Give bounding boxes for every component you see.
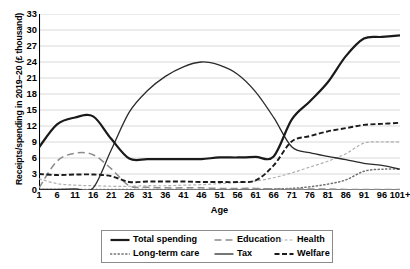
x-axis-tick-label: 86 — [341, 191, 351, 200]
x-axis-tick-label: 81 — [323, 191, 333, 200]
y-axis-tick-label: 3 — [17, 169, 37, 178]
x-axis-tick-label: 71 — [287, 191, 297, 200]
series-line-total-spending — [39, 35, 400, 160]
x-axis-tick-label: 66 — [269, 191, 279, 200]
legend-item-label: Tax — [237, 249, 252, 258]
y-axis-tick-label: 12 — [17, 121, 37, 130]
solid-thick-line-swatch — [110, 235, 130, 245]
legend-item-health[interactable]: Health — [270, 233, 325, 247]
y-axis-tick-label: 21 — [17, 73, 37, 82]
y-axis-tick-label: 24 — [17, 57, 37, 66]
dash-line-swatch — [274, 249, 294, 259]
plot-svg — [39, 14, 400, 190]
x-axis-tick-label: 51 — [214, 191, 224, 200]
x-axis-tick-label: 16 — [88, 191, 98, 200]
legend-item-long-term-care[interactable]: Long-term care — [106, 247, 199, 261]
solid-thin-line-swatch — [214, 249, 234, 259]
x-axis-tick-label: 31 — [142, 191, 152, 200]
x-axis-tick-label: 11 — [70, 191, 80, 200]
x-axis-title: Age — [39, 205, 400, 215]
y-axis-tick-label: 30 — [17, 25, 37, 34]
y-axis-tick-label: 18 — [17, 89, 37, 98]
y-axis-tick-label: 6 — [17, 153, 37, 162]
x-axis-tick-label: 56 — [232, 191, 242, 200]
x-axis-tick-label: 76 — [305, 191, 315, 200]
y-axis-tick-labels: 03691215182124273033 — [13, 0, 37, 269]
series-line-long-term-care — [39, 169, 400, 189]
long-dash-line-swatch — [214, 235, 234, 245]
x-axis-tick-label: 26 — [124, 191, 134, 200]
y-axis-tick-label: 9 — [17, 137, 37, 146]
legend-item-label: Total spending — [133, 235, 197, 244]
chart-legend: Total spendingEducationHealthLong-term c… — [101, 230, 333, 263]
y-axis-tick-label: 33 — [17, 9, 37, 18]
legend-item-label: Welfare — [297, 249, 330, 258]
plot-area — [39, 14, 400, 190]
legend-item-tax[interactable]: Tax — [210, 247, 252, 261]
x-axis-tick-label: 61 — [250, 191, 260, 200]
legend-item-welfare[interactable]: Welfare — [270, 247, 330, 261]
x-axis-tick-labels: 1611162126313641465156616671768186919610… — [39, 191, 404, 205]
legend-row: Long-term careTaxWelfare — [102, 247, 332, 261]
x-axis-tick-label: 91 — [359, 191, 369, 200]
x-axis-tick-label: 41 — [178, 191, 188, 200]
y-axis-tick-label: 0 — [17, 185, 37, 194]
x-axis-tick-label: 6 — [54, 191, 59, 200]
x-axis-tick-label: 46 — [196, 191, 206, 200]
x-axis-tick-label: 1 — [36, 191, 41, 200]
legend-item-total-spending[interactable]: Total spending — [106, 233, 197, 247]
legend-item-label: Health — [297, 235, 325, 244]
x-axis-tick-label: 36 — [160, 191, 170, 200]
x-axis-tick-label: 21 — [106, 191, 116, 200]
y-axis-tick-label: 15 — [17, 105, 37, 114]
legend-row: Total spendingEducationHealth — [102, 233, 332, 247]
x-axis-tick-label: 101+ — [390, 191, 410, 200]
legend-item-label: Long-term care — [133, 249, 199, 258]
y-axis-tick-label: 27 — [17, 41, 37, 50]
series-line-welfare — [39, 123, 400, 183]
fine-dash-line-swatch — [274, 235, 294, 245]
dotted-line-swatch — [110, 249, 130, 259]
x-axis-tick-label: 96 — [377, 191, 387, 200]
